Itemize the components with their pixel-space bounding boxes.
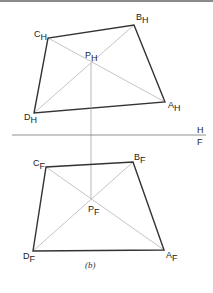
label-p-h: PH	[85, 50, 98, 63]
label-b-h: BH	[136, 12, 149, 25]
label-a-f: AF	[166, 250, 178, 263]
label-c-f: CF	[33, 158, 46, 171]
diagonal-bd-f	[33, 162, 133, 251]
orthographic-projection-figure: BH CH PH AH DH H F CF BF PF DF AF (b)	[0, 0, 213, 293]
folding-label-h: H	[197, 125, 204, 135]
diagram-canvas: BH CH PH AH DH H F CF BF PF DF AF (b)	[0, 0, 213, 293]
figure-caption: (b)	[85, 260, 96, 270]
folding-label-f: F	[197, 137, 203, 147]
diagonal-ac-f	[46, 167, 164, 250]
label-d-h: DH	[24, 112, 37, 125]
label-d-f: DF	[23, 251, 36, 264]
label-a-h: AH	[168, 100, 181, 113]
label-c-h: CH	[34, 29, 47, 42]
diagonal-ac-h	[48, 38, 165, 102]
top-view-h: BH CH PH AH DH	[24, 12, 181, 125]
label-b-f: BF	[134, 152, 146, 165]
quadrilateral-abcd-h	[34, 25, 165, 113]
label-p-f: PF	[88, 204, 100, 217]
top-border	[0, 0, 213, 2]
front-view-f: CF BF PF DF AF	[23, 152, 178, 264]
